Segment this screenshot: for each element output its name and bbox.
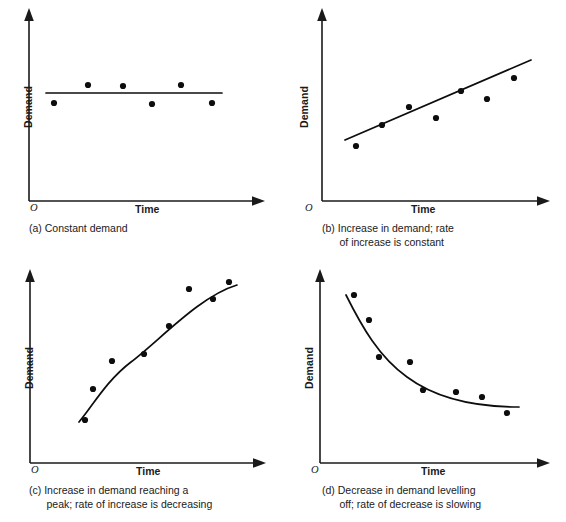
data-point <box>85 82 91 88</box>
x-axis-label: Time <box>421 465 445 477</box>
panel-c-increase-reaching-peak: Demand Time O (c) Increase in demand rea… <box>0 261 283 522</box>
data-point <box>141 351 147 357</box>
y-axis-label: Demand <box>22 86 34 128</box>
x-axis-label: Time <box>135 203 159 215</box>
x-axis-arrow-icon <box>252 196 265 206</box>
y-axis-arrow-icon <box>315 269 325 282</box>
data-point <box>186 286 192 292</box>
y-axis-label: Demand <box>303 347 315 389</box>
panel-caption: (b) Increase in demand; rate of increase… <box>322 222 454 249</box>
y-axis-arrow-icon <box>317 8 327 21</box>
x-axis-arrow-icon <box>537 458 550 468</box>
four-panel-demand-figure: Demand Time O (a) Constant demand Demand… <box>0 0 566 522</box>
data-point <box>484 96 490 102</box>
y-axis-label: Demand <box>298 86 310 128</box>
x-axis-arrow-icon <box>537 196 550 206</box>
y-axis-label: Demand <box>23 347 35 389</box>
origin-label: O <box>305 202 313 213</box>
panel-caption: (d) Decrease in demand levelling off; ra… <box>322 484 481 511</box>
panel-d-decrease-levelling-off: Demand Time O (d) Decrease in demand lev… <box>283 261 566 522</box>
data-point <box>376 354 382 360</box>
data-point <box>82 417 88 423</box>
x-axis-label: Time <box>411 203 435 215</box>
data-point <box>406 104 412 110</box>
data-point <box>504 410 510 416</box>
data-point <box>120 83 126 89</box>
data-point <box>379 122 385 128</box>
panel-a-constant-demand: Demand Time O (a) Constant demand <box>0 0 283 261</box>
data-point <box>511 75 517 81</box>
origin-label: O <box>311 464 319 475</box>
origin-label: O <box>31 464 39 475</box>
panel-caption: (a) Constant demand <box>29 222 128 236</box>
data-point <box>51 100 57 106</box>
data-point <box>366 317 372 323</box>
data-point <box>407 359 413 365</box>
data-point <box>166 323 172 329</box>
data-point <box>226 279 232 285</box>
origin-label: O <box>30 202 38 213</box>
y-axis-arrow-icon <box>25 269 35 282</box>
data-point <box>209 100 215 106</box>
y-axis-arrow-icon <box>24 8 34 21</box>
data-point <box>353 143 359 149</box>
data-point <box>178 82 184 88</box>
trend-curve-concave-increase <box>79 285 237 422</box>
x-axis-arrow-icon <box>253 458 266 468</box>
data-point <box>420 387 426 393</box>
data-point <box>453 389 459 395</box>
data-point <box>109 358 115 364</box>
data-point <box>210 296 216 302</box>
panel-b-increase-constant-rate: Demand Time O (b) Increase in demand; ra… <box>283 0 566 261</box>
panel-c-plot <box>0 261 283 522</box>
data-point <box>479 394 485 400</box>
data-point <box>458 88 464 94</box>
data-point <box>433 115 439 121</box>
panel-caption: (c) Increase in demand reaching a peak; … <box>29 484 212 511</box>
trend-curve-decay <box>346 295 519 407</box>
trend-line-linear-increase <box>345 60 531 140</box>
x-axis-label: Time <box>136 465 160 477</box>
panel-d-plot <box>283 261 566 522</box>
data-point <box>351 292 357 298</box>
data-point <box>90 386 96 392</box>
data-point <box>149 101 155 107</box>
